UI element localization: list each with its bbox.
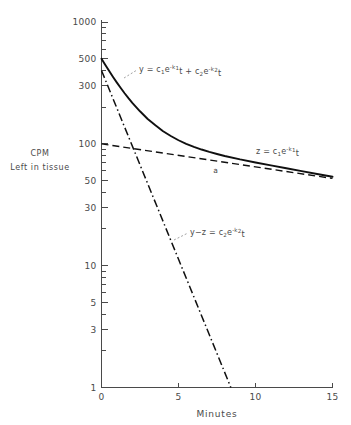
data-series-group (102, 59, 333, 388)
figure-container: 1351030501003005001000 051015 y = c1e-k1… (0, 0, 351, 425)
x-axis-tick-label: 10 (249, 392, 261, 402)
x-axis-title: Minutes (196, 409, 237, 419)
y-axis-tick-label: 5 (90, 298, 96, 308)
y-axis-title-line1: CPM (30, 149, 49, 158)
equation-label-y-minus-z: y−z = c2e-k2t (190, 227, 245, 239)
y-axis-tick-label: 3 (90, 325, 96, 335)
y-axis-tick-label: 30 (84, 203, 96, 213)
x-axis-tick-label: 0 (98, 392, 104, 402)
y-axis-title-line2: Left in tissue (10, 163, 70, 172)
intersection-point-label: a (213, 166, 218, 175)
equation-label-y-total: y = c1e-k1t + c2e-k2t (139, 64, 221, 78)
leader-line-y-minus-z (174, 233, 188, 240)
x-axis-ticks (102, 383, 333, 388)
leader-line-y-total (124, 70, 137, 78)
y-axis-tick-label: 500 (78, 54, 96, 64)
x-axis-tick-label: 5 (175, 392, 181, 402)
y-axis-tick-label: 10 (84, 261, 96, 271)
x-axis-tick-label: 15 (326, 392, 338, 402)
y-axis-tick-label: 50 (84, 176, 96, 186)
equation-label-z: z = c1e-k1t (256, 146, 299, 158)
y-axis-tick-label: 1 (90, 383, 96, 393)
y-axis-tick-label: 300 (78, 81, 96, 91)
semilog-decay-plot: 1351030501003005001000 051015 y = c1e-k1… (0, 0, 351, 425)
x-axis-tick-labels: 051015 (98, 392, 338, 402)
y-axis-tick-label: 100 (78, 139, 96, 149)
y-axis-tick-labels: 1351030501003005001000 (72, 17, 96, 393)
y-axis-tick-label: 1000 (72, 17, 96, 27)
